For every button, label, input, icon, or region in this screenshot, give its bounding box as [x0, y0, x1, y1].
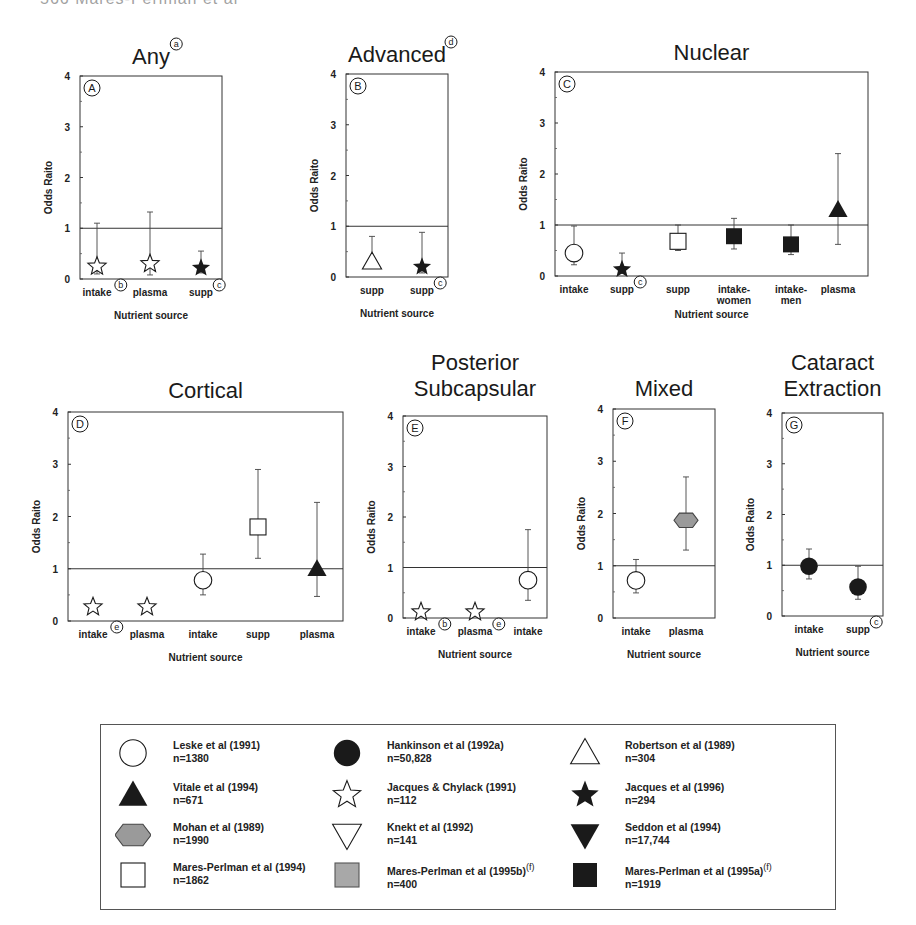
svg-text:d: d	[448, 37, 453, 47]
star-open-marker-icon	[466, 602, 484, 619]
y-tick-label: 0	[539, 271, 545, 282]
x-category-label: intake	[560, 284, 589, 295]
panel-title: Cortical	[168, 378, 243, 403]
triangle-down-open-marker-icon	[333, 824, 362, 849]
legend-label: Vitale et al (1994)n=671	[173, 781, 258, 807]
x-category-label: plasma	[130, 629, 165, 640]
panel-d: Cortical01234Odds RaitoDintakeeplasmaint…	[31, 378, 343, 663]
triangle-open-legend-icon	[567, 737, 603, 773]
footnote-circle-G: G	[786, 417, 802, 433]
y-tick-label: 4	[330, 69, 336, 80]
legend-item: Hankinson et al (1992a)n=50,828	[329, 737, 559, 777]
svg-text:F: F	[622, 415, 629, 427]
x-category-label: supp	[189, 287, 213, 298]
panel-a: Anya01234Odds RaitoAintakebplasmasuppcNu…	[43, 38, 225, 321]
y-tick-label: 2	[330, 171, 336, 182]
square-filled-legend-icon	[567, 859, 603, 895]
svg-text:A: A	[88, 82, 96, 94]
star-filled-legend-icon	[567, 779, 603, 815]
y-tick-label: 4	[539, 67, 545, 78]
legend-item: Vitale et al (1994)n=671	[115, 779, 345, 819]
footnote-circle-c: c	[213, 279, 225, 291]
circle-filled-legend-icon	[329, 737, 365, 773]
data-point	[192, 251, 210, 276]
triangle-open-marker-icon	[362, 252, 381, 269]
plot-frame	[80, 76, 222, 279]
panel-g: CataractExtraction01234Odds RaitoGintake…	[745, 350, 883, 658]
footnote-circle-b: b	[439, 618, 451, 630]
data-point	[466, 602, 484, 619]
svg-text:B: B	[354, 80, 361, 92]
legend-item: Mares-Perlman et al (1995a)(f)n=1919	[567, 859, 797, 899]
x-category-label: plasma	[669, 626, 704, 637]
plot-frame	[782, 413, 883, 616]
x-axis-label: Nutrient source	[360, 308, 434, 319]
square-open-marker-icon	[250, 519, 266, 535]
triangle-filled-marker-icon	[307, 559, 326, 576]
x-axis-label: Nutrient source	[627, 649, 701, 660]
footnote-circle-a: a	[170, 38, 182, 50]
legend-item: Jacques et al (1996)n=294	[567, 779, 797, 819]
panel-title: Cataract	[791, 350, 874, 375]
footnote-circle-b: b	[115, 279, 127, 291]
triangle-filled-legend-icon	[115, 779, 151, 815]
y-tick-label: 2	[597, 509, 603, 520]
triangle-filled-marker-icon	[828, 200, 847, 217]
x-axis-label: Nutrient source	[114, 310, 188, 321]
circle-open-marker-icon	[627, 572, 645, 590]
panel-title: Nuclear	[674, 40, 750, 65]
circle-open-marker-icon	[120, 740, 146, 766]
x-category-label: women	[716, 295, 751, 306]
triangle-down-open-legend-icon	[329, 819, 365, 855]
legend-label: Jacques et al (1996)n=294	[625, 781, 724, 807]
x-category-label: supp	[666, 284, 690, 295]
y-tick-label: 1	[52, 564, 58, 575]
x-axis-label: Nutrient source	[675, 309, 749, 320]
data-point	[250, 469, 266, 558]
data-point	[412, 602, 430, 619]
svg-text:c: c	[438, 278, 443, 288]
y-tick-label: 0	[766, 611, 772, 622]
legend-label: Seddon et al (1994)n=17,744	[625, 821, 721, 847]
svg-text:c: c	[638, 277, 643, 287]
legend-item: Mohan et al (1989)n=1990	[115, 819, 345, 859]
square-open-marker-icon	[670, 233, 686, 249]
y-tick-label: 4	[597, 404, 603, 415]
triangle-down-filled-marker-icon	[571, 824, 600, 849]
hexagon-gray-marker-icon	[115, 824, 151, 846]
legend-item: Leske et al (1991)n=1380	[115, 737, 345, 777]
y-tick-label: 1	[64, 223, 70, 234]
x-category-label: intake-	[718, 284, 750, 295]
legend-item: Mares-Perlman et al (1994)n=1862	[115, 859, 345, 899]
svg-text:C: C	[563, 78, 571, 90]
footnote-circle-c: c	[434, 277, 446, 289]
square-open-marker-icon	[121, 863, 145, 887]
y-tick-label: 3	[387, 462, 393, 473]
panel-title: Any	[132, 44, 170, 69]
x-axis-label: Nutrient source	[169, 652, 243, 663]
circle-filled-marker-icon	[849, 578, 867, 596]
legend-label: Hankinson et al (1992a)n=50,828	[387, 739, 504, 765]
footnote-circle-C: C	[559, 76, 575, 92]
star-open-marker-icon	[138, 597, 156, 614]
y-tick-label: 4	[64, 71, 70, 82]
footnote-circle-A: A	[84, 80, 100, 96]
x-category-label: plasma	[458, 626, 493, 637]
data-point	[613, 253, 631, 277]
svg-text:G: G	[790, 419, 799, 431]
legend-item: Seddon et al (1994)n=17,744	[567, 819, 797, 859]
y-tick-label: 0	[52, 616, 58, 627]
y-tick-label: 3	[330, 120, 336, 131]
x-category-label: supp	[610, 284, 634, 295]
data-point	[88, 223, 106, 274]
y-axis-label: Odds Raito	[31, 500, 42, 553]
x-category-label: supp	[846, 624, 870, 635]
svg-text:E: E	[411, 422, 418, 434]
data-point	[726, 218, 742, 249]
legend-item: Mares-Perlman et al (1995b)(f)n=400	[329, 859, 559, 899]
circle-open-legend-icon	[115, 737, 151, 773]
y-tick-label: 3	[597, 456, 603, 467]
data-point	[565, 226, 583, 265]
panel-b: Advancedd01234Odds RaitoBsuppsuppcNutrie…	[309, 36, 457, 319]
hexagon-gray-legend-icon	[115, 819, 151, 855]
